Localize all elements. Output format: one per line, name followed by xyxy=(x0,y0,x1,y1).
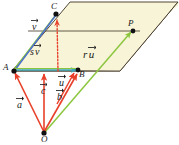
point-dot-p xyxy=(131,29,136,34)
point-dot-o xyxy=(41,130,46,135)
red-vector-o-to-b xyxy=(44,74,77,132)
red-vector-u xyxy=(57,73,74,104)
red-vector-o-to-a xyxy=(15,73,44,132)
point-dot-a xyxy=(11,68,16,73)
vector-diagram-canvas xyxy=(0,0,179,145)
point-dot-c xyxy=(53,11,58,16)
vector-plane-figure: O A B C P v s v xyxy=(0,0,179,145)
point-dot-b xyxy=(76,68,81,73)
